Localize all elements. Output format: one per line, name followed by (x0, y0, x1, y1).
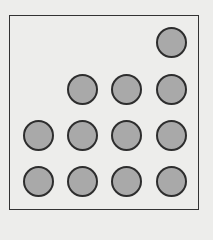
dot (67, 166, 98, 197)
dot (23, 120, 54, 151)
dot (156, 27, 187, 58)
dot (111, 74, 142, 105)
dot (67, 74, 98, 105)
dot (67, 120, 98, 151)
dot (111, 166, 142, 197)
dot (156, 74, 187, 105)
dot (111, 120, 142, 151)
dot (156, 120, 187, 151)
dot (23, 166, 54, 197)
dot (156, 166, 187, 197)
